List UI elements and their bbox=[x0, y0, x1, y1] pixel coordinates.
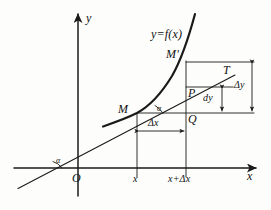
function-label: y=f(x) bbox=[151, 28, 182, 40]
x-tick-label: x bbox=[133, 174, 138, 184]
origin-label: O bbox=[72, 172, 81, 184]
point-label-T: T bbox=[223, 64, 230, 76]
angle-label-at-M: α bbox=[157, 105, 161, 113]
x-plus-delta-x-tick-label: x+Δx bbox=[168, 174, 190, 184]
point-label-M: M bbox=[118, 103, 128, 115]
dy-label: dy bbox=[203, 93, 213, 103]
point-label-Q: Q bbox=[188, 113, 197, 125]
delta-y-label: Δy bbox=[234, 80, 245, 90]
differential-figure: y O x y=f(x) M M' P Q T α α Δx Δy dy x x… bbox=[0, 0, 271, 210]
point-label-M-prime: M' bbox=[166, 48, 179, 60]
x-axis-label: x bbox=[247, 170, 253, 182]
point-label-P: P bbox=[188, 87, 196, 99]
delta-x-label: Δx bbox=[148, 118, 159, 128]
y-axis-label: y bbox=[86, 12, 92, 24]
angle-label-origin: α bbox=[56, 157, 60, 165]
